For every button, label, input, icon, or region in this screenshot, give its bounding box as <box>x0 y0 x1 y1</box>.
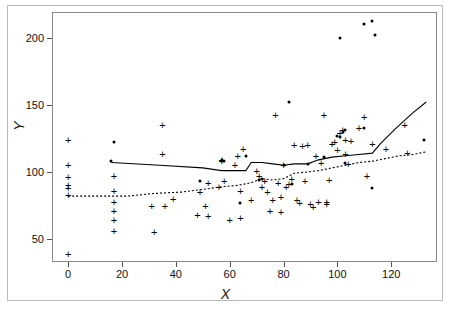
data-point-dot <box>290 183 293 186</box>
data-point-plus: + <box>364 170 370 181</box>
data-point-plus: + <box>315 196 321 207</box>
data-point-plus: + <box>326 175 332 186</box>
data-point-plus: + <box>111 226 117 237</box>
data-point-dot <box>422 138 425 141</box>
data-point-plus: + <box>348 136 354 147</box>
data-point-dot <box>110 160 113 163</box>
x-axis-tick-label: 100 <box>328 268 346 280</box>
data-point-dot <box>371 187 374 190</box>
data-point-plus: + <box>65 248 71 259</box>
data-point-plus: + <box>237 212 243 223</box>
data-point-dot <box>223 160 226 163</box>
data-point-plus: + <box>270 195 276 206</box>
data-point-plus: + <box>65 160 71 171</box>
data-point-plus: + <box>237 185 243 196</box>
x-axis-tick <box>284 262 285 267</box>
data-point-plus: + <box>334 145 340 156</box>
x-axis-tick <box>391 262 392 267</box>
data-point-plus: + <box>205 177 211 188</box>
data-point-plus: + <box>148 200 154 211</box>
data-point-dot <box>374 33 377 36</box>
data-point-plus: + <box>232 160 238 171</box>
data-point-plus: + <box>321 110 327 121</box>
x-axis-tick-label: 40 <box>170 268 182 280</box>
data-point-plus: + <box>159 119 165 130</box>
data-point-plus: + <box>369 138 375 149</box>
data-point-plus: + <box>278 207 284 218</box>
data-point-dot <box>344 129 347 132</box>
data-point-plus: + <box>111 170 117 181</box>
data-point-dot <box>199 180 202 183</box>
data-point-plus: + <box>401 119 407 130</box>
data-point-plus: + <box>318 157 324 168</box>
x-axis-tick <box>230 262 231 267</box>
x-axis-tick <box>68 262 69 267</box>
data-point-plus: + <box>305 140 311 151</box>
data-point-dot <box>306 162 309 165</box>
data-point-plus: + <box>302 176 308 187</box>
y-axis-tick-label: 100 <box>8 166 44 178</box>
x-axis-tick-label: 0 <box>65 268 71 280</box>
data-point-dot <box>339 36 342 39</box>
data-point-plus: + <box>162 200 168 211</box>
data-point-dot <box>339 136 342 139</box>
data-point-dot <box>371 20 374 23</box>
data-point-plus: + <box>65 134 71 145</box>
y-axis-tick-label: 200 <box>8 32 44 44</box>
scatter-plot-figure: Y X 50100150200020406080100120 +++++++++… <box>0 0 451 311</box>
data-point-plus: + <box>296 197 302 208</box>
data-point-plus: + <box>291 140 297 151</box>
y-axis-tick-label: 50 <box>8 233 44 245</box>
data-point-plus: + <box>151 227 157 238</box>
y-axis-tick-label: 150 <box>8 99 44 111</box>
data-point-plus: + <box>65 189 71 200</box>
x-axis-tick <box>176 262 177 267</box>
x-axis-tick-label: 120 <box>382 268 400 280</box>
data-point-plus: + <box>226 215 232 226</box>
data-point-plus: + <box>272 110 278 121</box>
solid-smoother <box>111 102 426 171</box>
data-point-dot <box>322 156 325 159</box>
y-axis-title: Y <box>11 121 27 130</box>
x-axis-title: X <box>0 286 451 302</box>
x-axis-tick <box>337 262 338 267</box>
data-point-plus: + <box>248 195 254 206</box>
data-point-plus: + <box>267 205 273 216</box>
data-point-plus: + <box>356 122 362 133</box>
data-point-dot <box>239 201 242 204</box>
data-point-plus: + <box>170 193 176 204</box>
data-point-plus: + <box>159 149 165 160</box>
x-axis-tick-label: 80 <box>277 268 289 280</box>
x-axis-tick-label: 20 <box>116 268 128 280</box>
data-point-dot <box>282 164 285 167</box>
data-point-plus: + <box>194 209 200 220</box>
data-point-dot <box>287 101 290 104</box>
data-point-plus: + <box>205 211 211 222</box>
data-point-plus: + <box>240 144 246 155</box>
data-point-dot <box>363 126 366 129</box>
data-point-plus: + <box>197 187 203 198</box>
data-point-plus: + <box>383 144 389 155</box>
data-point-plus: + <box>278 192 284 203</box>
x-axis-tick-label: 60 <box>224 268 236 280</box>
plot-data-area: ++++++++++++++++++++++++++++++++++++++++… <box>52 12 437 262</box>
data-point-plus: + <box>404 148 410 159</box>
data-point-dot <box>112 141 115 144</box>
data-point-dot <box>244 154 247 157</box>
data-point-dot <box>363 23 366 26</box>
data-point-dot <box>344 161 347 164</box>
x-axis-tick <box>122 262 123 267</box>
data-point-plus: + <box>275 177 281 188</box>
data-point-dot <box>261 177 264 180</box>
data-point-plus: + <box>323 199 329 210</box>
data-point-plus: + <box>221 176 227 187</box>
data-point-plus: + <box>361 111 367 122</box>
